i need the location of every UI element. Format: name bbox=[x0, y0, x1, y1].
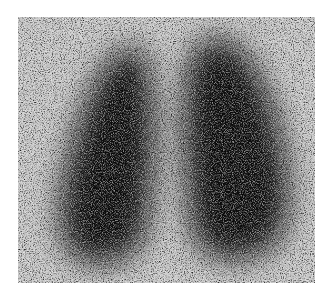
scintigraphy-image bbox=[18, 17, 315, 283]
scan-svg bbox=[18, 17, 315, 283]
